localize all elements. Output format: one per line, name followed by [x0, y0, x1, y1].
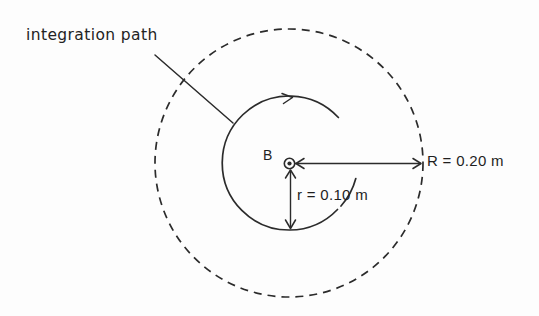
arrow-clockwise-icon	[282, 94, 293, 104]
integration-path-label: integration path	[26, 26, 158, 44]
integration-path-leader-line	[155, 55, 233, 123]
magnetic-field-label: B	[263, 147, 272, 163]
outer-radius-label: R = 0.20 m	[427, 152, 504, 169]
circle-dot-icon-core	[287, 161, 291, 165]
physics-diagram: integration path B R = 0.20 m r = 0.10 m	[0, 0, 539, 316]
inner-radius-label: r = 0.10 m	[297, 186, 368, 203]
